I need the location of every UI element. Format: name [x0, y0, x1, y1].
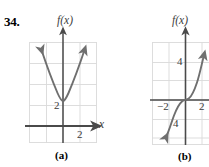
figure-container: 34. f(x) — [0, 0, 209, 167]
panel-b-y-negative-label: 4 — [173, 117, 179, 129]
panel-a-caption: (a) — [55, 149, 68, 161]
panel-a-y-intercept-label: 2 — [54, 99, 60, 111]
panel-b-y-positive-label: 4 — [177, 55, 183, 67]
panel-a-x-tick-label: 2 — [77, 128, 83, 140]
panel-b-x-negative-label: −2 — [157, 100, 169, 112]
panel-b-x-positive-label: 2 — [199, 100, 205, 112]
panel-b: f(x) — [100, 0, 209, 167]
panel-b-caption: (b) — [178, 150, 191, 162]
panel-a: f(x) — [0, 0, 110, 167]
panel-a-plot — [0, 0, 110, 150]
panel-b-plot — [100, 0, 209, 150]
